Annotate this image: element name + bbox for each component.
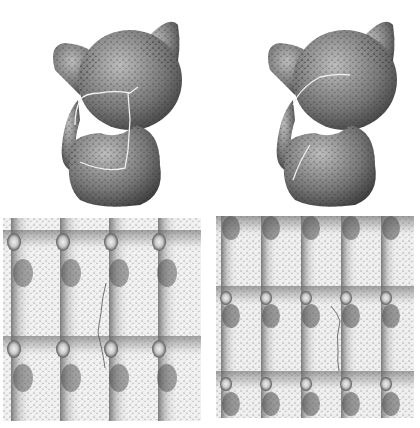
cat-mesh-left (20, 5, 210, 210)
cat-body-shape (53, 22, 182, 207)
parameterization-tiling-right (216, 216, 414, 418)
parameterization-tiling-left (3, 218, 201, 421)
cat-mesh-right (235, 5, 420, 210)
